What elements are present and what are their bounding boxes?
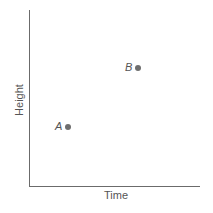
point-b-marker — [135, 65, 141, 71]
scatter-chart: Height Time A B — [0, 0, 213, 213]
y-axis-line — [29, 10, 30, 187]
point-a-marker — [65, 124, 71, 130]
x-axis-label: Time — [96, 189, 136, 201]
point-a-label: A — [55, 120, 62, 132]
x-axis-line — [29, 186, 200, 187]
point-b-label: B — [125, 61, 132, 73]
y-axis-label: Height — [13, 79, 25, 121]
